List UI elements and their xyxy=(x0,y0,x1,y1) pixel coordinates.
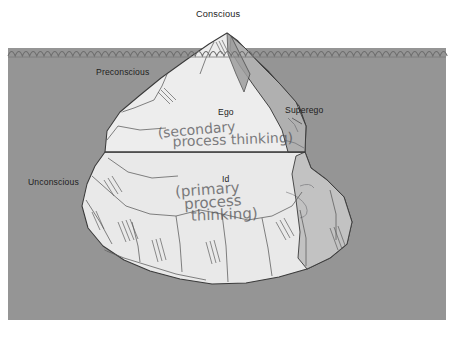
label-conscious: Conscious xyxy=(196,10,240,19)
label-superego: Superego xyxy=(285,106,323,115)
label-ego: Ego xyxy=(218,108,234,117)
label-preconscious: Preconscious xyxy=(96,68,149,77)
label-unconscious: Unconscious xyxy=(28,178,79,187)
label-id: Id xyxy=(222,175,229,184)
iceberg-diagram: Conscious Preconscious Ego Superego Id U… xyxy=(0,0,454,347)
